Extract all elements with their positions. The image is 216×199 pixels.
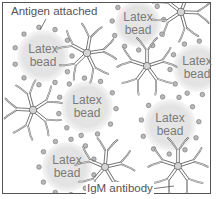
latex-bead-label: Latexbead [145, 112, 195, 138]
antigen-dot [69, 137, 74, 142]
antigen-dot [155, 4, 160, 9]
antigen-dot [22, 32, 27, 37]
antigen-dot [183, 148, 188, 153]
antigen-dot [67, 82, 72, 87]
antigen-dot [139, 118, 144, 123]
antigen-dot [197, 119, 202, 124]
antigen-dot [65, 126, 70, 131]
latex-bead-label: Latexbead [18, 43, 68, 69]
igm-pentamer [0, 75, 69, 145]
antigen-dot [214, 85, 216, 90]
antigen-dot [53, 190, 58, 195]
igm-antibody-label: IgM antibody [86, 182, 154, 194]
antigen-dot [173, 82, 178, 87]
antigen-dot [53, 27, 58, 32]
antigen-dot [142, 0, 147, 1]
antigen-dot [182, 42, 187, 47]
antigen-dot [190, 104, 195, 109]
antigen-dot [57, 111, 62, 116]
latex-bead-label: Latexbead [42, 154, 92, 180]
antigen-dot [160, 95, 165, 100]
antigen-dot [53, 139, 58, 144]
antigen-dot [128, 0, 133, 2]
antigen-dot [53, 80, 58, 85]
antigen-dot [13, 46, 18, 51]
antigen-dot [146, 103, 151, 108]
antigen-dot [41, 180, 46, 185]
antigen-dot [98, 79, 103, 84]
antigen-dot [108, 122, 113, 127]
latex-bead-label: Latexbead [62, 94, 112, 120]
antigen-dot [70, 54, 75, 59]
antigen-dot [200, 92, 205, 97]
antigen-dot [37, 165, 42, 170]
antigen-dot [167, 152, 172, 157]
antigen-dot [114, 106, 119, 111]
antigen-dot [37, 82, 42, 87]
igm-agglutination-diagram: LatexbeadLatexbeadLatexbeadLatexbeadLate… [0, 0, 215, 199]
antigen-dot [13, 62, 18, 67]
antigen-dot [95, 132, 100, 137]
latex-bead-label: Latexbead [113, 11, 163, 37]
antigen-dot [177, 95, 182, 100]
antigen-dot [65, 69, 70, 74]
antigen-dot [116, 5, 121, 10]
antigen-dot [69, 192, 74, 197]
antigen-leader-line [40, 19, 46, 30]
antigen-dot [211, 44, 215, 49]
antigen-dot [136, 48, 141, 53]
latex-bead-label: Latexbead [172, 55, 215, 81]
antigen-dot [197, 39, 202, 44]
antigen-dot [79, 133, 84, 138]
antigen-dot [82, 76, 87, 81]
antigen-dot [22, 76, 27, 81]
antigen-attached-label: Antigen attached [10, 5, 98, 17]
antigen-dot [185, 91, 190, 96]
